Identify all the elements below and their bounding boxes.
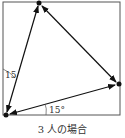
arrow-top-right bbox=[42, 6, 116, 82]
angle-label-left: 15 bbox=[5, 70, 17, 80]
vertex-top bbox=[37, 1, 42, 6]
angle-label-bottom: 15° bbox=[49, 105, 65, 115]
vertex-right bbox=[117, 82, 122, 87]
square bbox=[3, 2, 120, 115]
arrow-left-top bbox=[7, 6, 38, 112]
vertex-bottom-left bbox=[4, 113, 9, 118]
caption: 3 人の場合 bbox=[0, 121, 125, 136]
diagram-figure: 15 15° bbox=[0, 0, 125, 120]
angle-arc-bottom bbox=[45, 104, 46, 115]
